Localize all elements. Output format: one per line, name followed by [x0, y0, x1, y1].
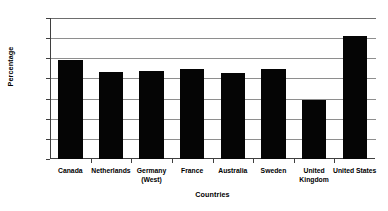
bars-group — [50, 18, 375, 159]
x-tick-mark — [213, 159, 214, 163]
x-category-label: United States — [330, 166, 379, 175]
bar-chart: Percentage 02468101214 CanadaNetherlands… — [0, 0, 388, 211]
bar — [180, 69, 204, 159]
bar — [261, 69, 285, 159]
x-tick-mark — [334, 159, 335, 163]
bar — [221, 73, 245, 159]
x-axis-title: Countries — [50, 190, 375, 199]
x-tick-mark — [172, 159, 173, 163]
bar — [58, 60, 82, 159]
bar — [139, 71, 163, 159]
bar — [343, 36, 367, 159]
y-tick-mark-0 — [46, 159, 50, 160]
bar — [302, 100, 326, 159]
x-tick-mark — [131, 159, 132, 163]
x-tick-mark — [253, 159, 254, 163]
y-axis-title: Percentage — [6, 31, 15, 103]
x-tick-mark — [294, 159, 295, 163]
x-tick-mark — [91, 159, 92, 163]
bar — [99, 72, 123, 159]
